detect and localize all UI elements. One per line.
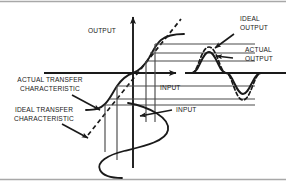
input-waveform-leader-arrow bbox=[140, 110, 172, 116]
input-axis-label: INPUT bbox=[160, 84, 181, 91]
actual-transfer-label-line2: CHARACTERISTIC bbox=[20, 85, 80, 92]
ideal-output-leader-arrow bbox=[215, 34, 234, 48]
actual-transfer-leader-arrow bbox=[72, 95, 100, 110]
ideal-output-label-line1: IDEAL bbox=[240, 15, 260, 22]
ideal-transfer-label-line2: CHARACTERISTIC bbox=[14, 115, 74, 122]
actual-output-leader-arrow bbox=[216, 56, 233, 58]
transfer-characteristic-figure: OUTPUT INPUT INPUT ACTUAL TRANSFER CHARA… bbox=[0, 0, 286, 181]
output-axis-label: OUTPUT bbox=[88, 27, 116, 34]
ideal-output-label-line2: OUTPUT bbox=[240, 24, 268, 31]
actual-output-label-line1: ACTUAL bbox=[245, 46, 272, 53]
actual-transfer-label-line1: ACTUAL TRANSFER bbox=[17, 76, 82, 83]
input-waveform-label: INPUT bbox=[176, 106, 197, 113]
actual-output-label-line2: OUTPUT bbox=[245, 55, 273, 62]
ideal-transfer-label-line1: IDEAL TRANSFER bbox=[15, 106, 73, 113]
ideal-transfer-leader-arrow bbox=[62, 124, 88, 138]
